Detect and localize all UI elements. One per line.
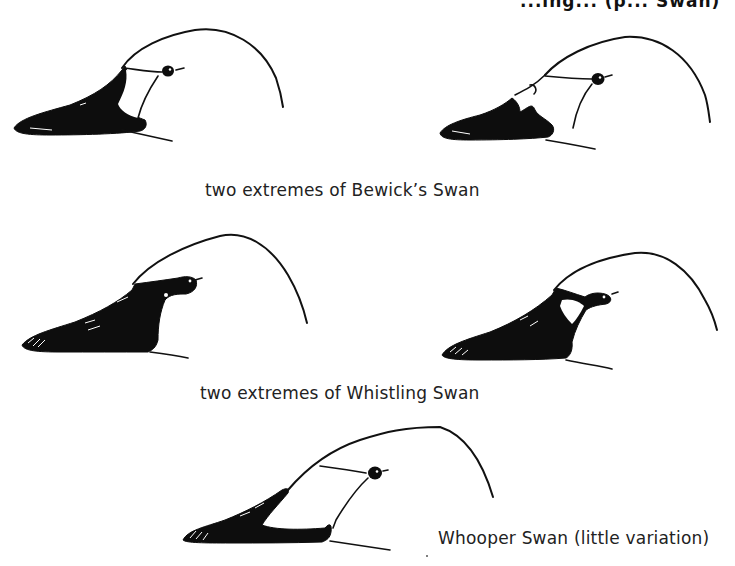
bewicks-swan-head-2 (440, 37, 710, 149)
caption-whooper-swan: Whooper Swan (little variation) (438, 528, 709, 548)
bewicks-swan-head-1 (14, 29, 283, 141)
caption-whistling-swan: two extremes of Whistling Swan (200, 383, 480, 403)
whistling-swan-head-1 (22, 235, 307, 358)
caption-bewicks-swan: two extremes of Bewick’s Swan (205, 180, 480, 200)
swan-heads-illustration (0, 0, 735, 566)
whistling-swan-head-4 (442, 253, 717, 369)
